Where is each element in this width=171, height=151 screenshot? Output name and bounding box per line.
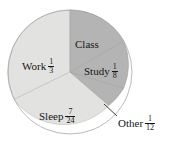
pie-label-class-text: Class <box>75 39 99 50</box>
pie-label-sleep-text: Sleep <box>39 111 63 122</box>
pie-chart-figure: Class Study 1 8 Work 1 3 Sleep 7 24 Othe… <box>0 0 171 151</box>
other-leader-line <box>104 104 117 116</box>
pie-label-work: Work 1 3 <box>22 58 54 76</box>
pie-label-work-text: Work <box>22 61 46 72</box>
pie-label-study: Study 1 8 <box>84 63 118 81</box>
fraction-denominator: 24 <box>65 116 75 125</box>
fraction-numerator: 7 <box>67 108 73 116</box>
pie-label-other-fraction: 1 12 <box>145 115 155 133</box>
fraction-denominator: 8 <box>112 71 118 80</box>
pie-label-other: Other 1 12 <box>118 115 155 133</box>
fraction-numerator: 1 <box>48 58 54 66</box>
fraction-denominator: 3 <box>48 66 54 75</box>
fraction-numerator: 1 <box>147 115 153 123</box>
fraction-numerator: 1 <box>112 63 118 71</box>
pie-label-work-fraction: 1 3 <box>48 58 54 76</box>
pie-label-class: Class <box>75 39 99 50</box>
pie-label-sleep-fraction: 7 24 <box>65 108 75 126</box>
fraction-denominator: 12 <box>145 123 155 132</box>
pie-label-other-text: Other <box>118 118 143 129</box>
pie-label-study-text: Study <box>84 66 110 77</box>
pie-label-sleep: Sleep 7 24 <box>39 108 75 126</box>
pie-label-study-fraction: 1 8 <box>112 63 118 81</box>
